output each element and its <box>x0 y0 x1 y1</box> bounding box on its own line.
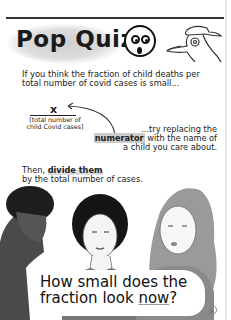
now-emphasis: now <box>138 289 169 307</box>
intro-text: If you think the fraction of child death… <box>22 70 200 88</box>
mouth <box>137 47 142 54</box>
surprised-face-icon <box>124 25 156 57</box>
top-rule <box>6 17 224 19</box>
plague-doctor-icon <box>165 22 223 62</box>
left-eye <box>131 35 140 44</box>
caption-line-2-prefix: fraction look <box>40 289 138 307</box>
instruction-text: ...try replacing the numerator with the … <box>94 125 217 152</box>
caption-line-1: How small does the <box>40 274 187 290</box>
intro-line-2: total number of covid cases is small... <box>22 79 200 88</box>
right-eye <box>141 35 150 44</box>
caption-line-2-suffix: ? <box>169 289 177 307</box>
instruction-line-3: a child you care about. <box>94 143 217 152</box>
artist-signature-icon: ♀ <box>207 305 217 315</box>
caption-line-2: fraction look now? <box>40 290 187 306</box>
caption: How small does the fraction look now? <box>40 274 187 306</box>
